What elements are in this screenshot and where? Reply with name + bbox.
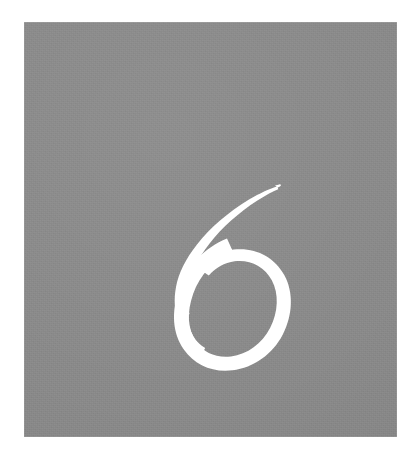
scanned-page: 6 xyxy=(0,0,419,457)
chapter-opener-panel xyxy=(24,22,397,437)
chapter-number-6-icon xyxy=(24,22,397,437)
